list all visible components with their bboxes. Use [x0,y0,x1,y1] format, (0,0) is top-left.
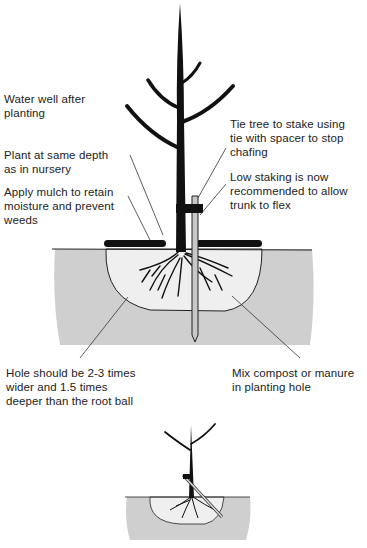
label-tie-tree: Tie tree to stake using tie with spacer … [230,117,345,159]
label-apply-mulch: Apply mulch to retain moisture and preve… [4,185,114,227]
label-mix-compost: Mix compost or manure in planting hole [232,366,354,394]
label-hole-size: Hole should be 2-3 times wider and 1.5 t… [6,366,136,408]
label-water-well: Water well after planting [4,92,85,120]
label-plant-depth: Plant at same depth as in nursery [4,148,108,176]
second-tree-illustration [0,0,367,548]
label-low-staking: Low staking is now recommended to allow … [230,170,348,212]
